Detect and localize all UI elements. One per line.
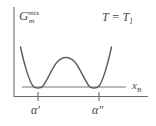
gibbs-energy-curve — [21, 47, 112, 88]
y-axis-subscript: m — [29, 17, 34, 25]
temperature-value-subscript: 1 — [129, 17, 133, 26]
x-axis-label: xB — [132, 80, 142, 94]
y-axis-superscript: mix — [28, 9, 39, 17]
temperature-equals: = — [108, 10, 122, 24]
temperature-annotation: T = T1 — [102, 11, 133, 26]
tick-label-alpha-prime: α′ — [31, 104, 40, 116]
y-axis-symbol: G — [19, 8, 28, 23]
tick-label-alpha-double-prime: α″ — [92, 104, 103, 116]
y-axis-label: Gmmix — [19, 9, 39, 25]
gibbs-energy-figure: Gmmix T = T1 xB α′ α″ — [0, 0, 156, 126]
x-axis-subscript: B — [137, 86, 142, 94]
